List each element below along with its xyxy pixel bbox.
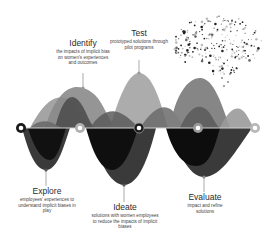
stage-title: Explore	[14, 186, 80, 196]
upper-hills	[30, 73, 255, 128]
stage-identify: Identify the impacts of implicit bias on…	[54, 38, 112, 66]
lower-valleys	[22, 128, 252, 185]
stage-description: the impacts of implicit bias on women's …	[54, 49, 112, 66]
stage-explore: Explore employees' experiences to unders…	[14, 186, 80, 214]
stage-title: Identify	[54, 38, 112, 48]
stage-description: employees' experiences to understand imp…	[14, 197, 80, 214]
stage-test: Test prototyped solutions through pilot …	[110, 28, 168, 50]
brain-dot-cloud-icon	[174, 16, 262, 87]
stage-ideate: Ideate solutions with women employees to…	[90, 202, 160, 230]
stage-description: solutions with women employees to reduce…	[90, 213, 160, 230]
stage-title: Ideate	[90, 202, 160, 212]
stage-description: impact and refine solutions	[180, 203, 230, 214]
stage-description: prototyped solutions through pilot progr…	[110, 39, 168, 50]
stage-title: Evaluate	[180, 192, 230, 202]
stage-title: Test	[110, 28, 168, 38]
stage-evaluate: Evaluate impact and refine solutions	[180, 192, 230, 214]
